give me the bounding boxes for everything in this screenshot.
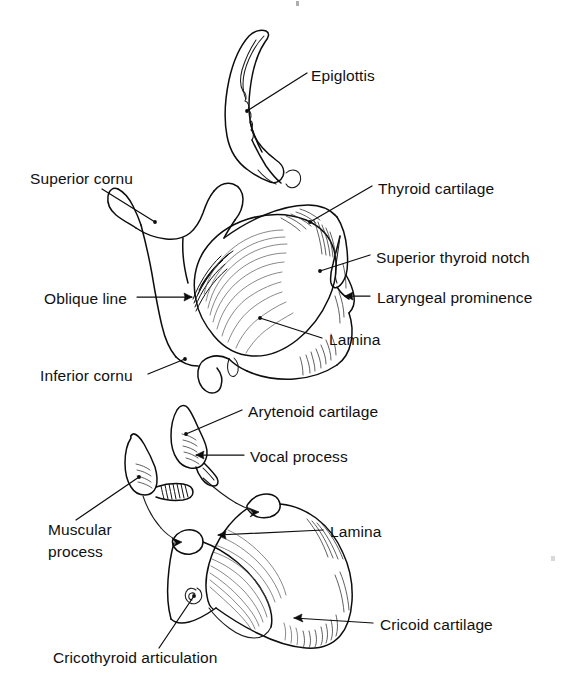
leader-inferior-cornu	[148, 357, 187, 374]
leader-superior-cornu	[102, 189, 157, 224]
leader-muscular-process	[76, 475, 141, 520]
label-muscular-process-line1: Muscular	[48, 520, 112, 541]
leader-epiglottis	[245, 73, 307, 113]
leader-lamina-lower	[218, 530, 323, 539]
leader-vocal-process	[196, 451, 244, 459]
label-arytenoid-cartilage: Arytenoid cartilage	[248, 402, 378, 423]
label-inferior-cornu: Inferior cornu	[40, 366, 133, 387]
cricoid-cartilage-shape	[168, 494, 353, 648]
label-lamina-upper: Lamina	[329, 330, 380, 351]
label-oblique-line: Oblique line	[44, 289, 127, 310]
lamina-shading	[204, 230, 293, 353]
label-vocal-process: Vocal process	[250, 447, 348, 468]
label-epiglottis: Epiglottis	[311, 66, 375, 87]
leader-lamina-upper	[258, 316, 322, 338]
cricoid-lamina-shading	[210, 530, 286, 631]
label-superior-thyroid-notch: Superior thyroid notch	[376, 248, 530, 269]
leader-oblique-line	[137, 293, 192, 301]
arytenoid-cartilage-left-shape	[125, 434, 193, 500]
arytenoid-cartilage-right-shape	[171, 406, 218, 486]
epiglottis-shape	[225, 30, 283, 184]
label-superior-cornu: Superior cornu	[30, 169, 133, 190]
anatomy-figure: Epiglottis Superior cornu Thyroid cartil…	[0, 0, 571, 692]
label-lamina-lower: Lamina	[330, 522, 381, 543]
leader-thyroid-cartilage	[308, 186, 372, 224]
leader-arytenoid-cartilage	[184, 410, 242, 436]
label-cricoid-cartilage: Cricoid cartilage	[380, 615, 493, 636]
label-thyroid-cartilage: Thyroid cartilage	[378, 179, 494, 200]
label-cricothyroid-articulation: Cricothyroid articulation	[53, 648, 217, 669]
leader-cricoid-cartilage	[294, 614, 373, 623]
label-muscular-process-line2: process	[48, 542, 103, 563]
label-laryngeal-prominence: Laryngeal prominence	[377, 288, 532, 309]
larynx-line-drawing	[0, 0, 571, 692]
thyroid-cartilage-shape	[108, 170, 354, 393]
